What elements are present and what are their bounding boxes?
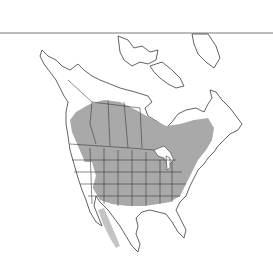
arctic-islands [118,36,158,66]
greenland [192,34,220,68]
baffin-island [150,62,184,88]
range-map [0,0,273,268]
north-america-map [0,0,273,268]
lake-michigan [166,156,170,170]
